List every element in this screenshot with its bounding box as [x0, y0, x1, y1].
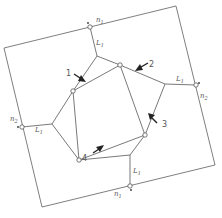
label-L-bottom: L1 — [132, 167, 141, 176]
arrow-1: 1 — [66, 69, 86, 82]
edge-top-left-ext — [52, 91, 73, 124]
node-boundary-left — [20, 125, 24, 129]
label-n-top: n1 — [96, 16, 104, 25]
arrow-1-label: 1 — [66, 69, 71, 78]
label-L-right: L1 — [175, 75, 184, 84]
label-n-bottom: n1 — [114, 190, 122, 199]
marker-dot-right — [198, 82, 200, 84]
marker-dot-bottom — [130, 189, 132, 191]
marker-dot-top — [87, 22, 89, 24]
connector-right — [165, 84, 196, 85]
edge-top-left — [73, 56, 97, 91]
label-L-left: L1 — [34, 126, 43, 135]
node-inner-1 — [71, 89, 75, 93]
arrow-2-head-icon — [135, 64, 143, 71]
arrow-1-head-icon — [78, 75, 86, 82]
node-boundary-bottom — [128, 184, 132, 188]
edge-left-bottom — [52, 124, 79, 160]
arrow-2: 2 — [135, 60, 154, 71]
marker-dot-left — [17, 126, 19, 128]
node-boundary-right — [194, 83, 198, 87]
edge-top-right-ext — [120, 65, 165, 84]
arrow-2-label: 2 — [149, 60, 154, 69]
node-boundary-top — [88, 25, 92, 29]
label-n-right: n2 — [200, 92, 208, 101]
diagram-canvas: n1 n2 n2 n1 L1 L1 L1 L1 1 2 3 4 — [0, 0, 222, 218]
arrow-4-label: 4 — [82, 154, 87, 163]
label-L-top: L1 — [95, 39, 104, 48]
node-inner-2 — [118, 63, 122, 67]
node-inner-4 — [77, 158, 81, 162]
node-inner-3 — [143, 133, 147, 137]
edge-top-right — [97, 56, 120, 65]
arrow-4: 4 — [82, 145, 104, 163]
outer-frame — [4, 6, 215, 207]
arrow-3-label: 3 — [162, 120, 167, 129]
label-n-left: n2 — [10, 115, 18, 124]
